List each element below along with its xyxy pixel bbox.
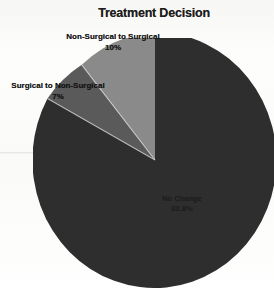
slice-label-name: Non-Surgical to Surgical (66, 32, 159, 41)
slice-label-percent: 82.8% (146, 204, 218, 214)
chart-canvas: Treatment Decision Non-Surgical to Surgi… (0, 0, 274, 301)
slice-label-name: Surgical to Non-Surgical (11, 81, 104, 90)
slice-label-percent: 7% (2, 92, 114, 103)
pie-slices (33, 38, 274, 288)
slice-label-non-surgical-to-surgical: Non-Surgical to Surgical 10% (52, 32, 174, 53)
slice-label-surgical-to-non-surgical: Surgical to Non-Surgical 7% (2, 81, 114, 102)
slice-label-percent: 10% (52, 43, 174, 54)
chart-title: Treatment Decision (0, 6, 274, 20)
chart-title-text: Treatment Decision (64, 6, 210, 20)
slice-label-name: No Change (162, 194, 202, 203)
pie-svg (33, 38, 274, 296)
pie-chart (33, 38, 274, 296)
slice-label-no-change: No Change 82.8% (146, 194, 218, 214)
